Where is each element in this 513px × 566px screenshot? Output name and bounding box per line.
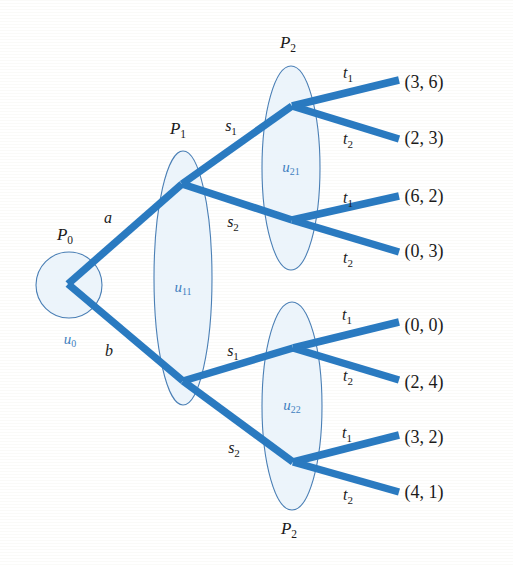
action-label-s2-top: s2 [227, 213, 239, 233]
action-label-t1-4: t1 [342, 424, 352, 444]
player-header-p2-top: P2 [279, 33, 296, 54]
action-label-s1-bottom: s1 [227, 342, 239, 362]
action-label-b: b [105, 342, 113, 359]
player-header-p0: P0 [56, 225, 73, 246]
payoff-label: (6, 2) [405, 186, 444, 207]
action-label-a: a [104, 209, 112, 226]
player-header-p2-bottom: P2 [280, 519, 297, 540]
payoff-label: (4, 1) [405, 482, 444, 503]
action-label-s2-bottom: s2 [228, 439, 240, 459]
game-tree-figure: P0 P1 P2 P2 u0 u11 u21 u22 a b s1 s2 s1 … [0, 0, 513, 566]
action-label-t1-3: t1 [342, 306, 352, 326]
action-label-s1-top: s1 [225, 117, 237, 137]
player-header-p1: P1 [169, 119, 186, 140]
payoff-label: (3, 2) [405, 427, 444, 448]
action-label-t2-3: t2 [343, 367, 353, 387]
payoff-labels: (3, 6) (2, 3) (6, 2) (0, 3) (0, 0) (2, 4… [405, 72, 444, 503]
payoff-label: (3, 6) [405, 72, 444, 93]
game-tree-svg: P0 P1 P2 P2 u0 u11 u21 u22 a b s1 s2 s1 … [0, 0, 513, 566]
action-label-t1-1: t1 [343, 64, 353, 84]
action-label-t2-4: t2 [343, 486, 353, 506]
payoff-label: (2, 3) [405, 128, 444, 149]
action-label-t2-1: t2 [343, 130, 353, 150]
payoff-label: (0, 0) [405, 315, 444, 336]
payoff-label: (0, 3) [405, 241, 444, 262]
infoset-label-u0: u0 [64, 331, 77, 349]
payoff-label: (2, 4) [405, 372, 444, 393]
action-label-t2-2: t2 [343, 249, 353, 269]
